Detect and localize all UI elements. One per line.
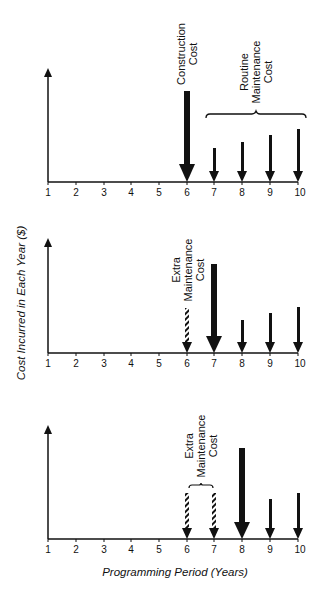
routine-arrow-icon <box>237 320 247 353</box>
svg-text:4: 4 <box>128 358 134 369</box>
svg-text:8: 8 <box>239 544 245 555</box>
panel-1: 1 2 3 4 5 6 7 8 9 10 <box>44 23 306 198</box>
extra-maintenance-arrow-icon <box>182 493 192 539</box>
svg-text:Cost: Cost <box>262 61 274 84</box>
svg-text:7: 7 <box>211 187 217 198</box>
svg-text:2: 2 <box>73 358 79 369</box>
routine-arrow-icon <box>293 307 303 353</box>
svg-text:3: 3 <box>101 358 107 369</box>
svg-text:Extra: Extra <box>170 256 182 283</box>
routine-arrow-icon <box>265 135 275 182</box>
svg-text:2: 2 <box>73 187 79 198</box>
routine-arrow-icon <box>293 493 303 539</box>
svg-text:Maintenance: Maintenance <box>182 239 194 302</box>
x-tick-labels: 1 2 3 4 5 6 7 8 9 10 <box>45 544 306 555</box>
svg-text:6: 6 <box>184 544 190 555</box>
routine-arrow-icon <box>237 142 247 182</box>
svg-text:10: 10 <box>294 544 306 555</box>
cost-timeline-diagram: 1 2 3 4 5 6 7 8 9 10 <box>0 0 324 592</box>
x-tick-labels: 1 2 3 4 5 6 7 8 9 10 <box>45 187 306 198</box>
panel-2: 1 2 3 4 5 6 7 8 9 10 Extra Maintenance <box>44 238 306 369</box>
svg-text:1: 1 <box>45 358 51 369</box>
svg-text:Cost: Cost <box>194 259 206 282</box>
y-axis-arrow-icon <box>44 238 52 247</box>
svg-text:Cost: Cost <box>207 435 219 458</box>
construction-arrow-icon <box>206 264 222 353</box>
extra-maintenance-brace <box>189 483 213 488</box>
svg-text:5: 5 <box>156 544 162 555</box>
svg-text:Construction: Construction <box>175 23 187 85</box>
svg-text:4: 4 <box>128 187 134 198</box>
svg-text:4: 4 <box>128 544 134 555</box>
routine-maintenance-cost-label: Routine Maintenance Cost <box>238 41 274 104</box>
svg-text:Routine: Routine <box>238 53 250 91</box>
svg-text:10: 10 <box>294 187 306 198</box>
routine-arrow-icon <box>265 313 275 353</box>
routine-brace <box>206 111 306 118</box>
panel-3: 1 2 3 4 5 6 7 8 9 10 Extra Mainten <box>44 415 306 556</box>
svg-text:Maintenance: Maintenance <box>250 41 262 104</box>
x-tick-labels: 1 2 3 4 5 6 7 8 9 10 <box>45 358 306 369</box>
svg-text:6: 6 <box>184 187 190 198</box>
svg-text:2: 2 <box>73 544 79 555</box>
routine-arrow-icon <box>209 148 219 182</box>
routine-arrow-icon <box>265 499 275 539</box>
extra-maintenance-arrow-icon <box>182 308 192 353</box>
svg-text:7: 7 <box>211 544 217 555</box>
svg-text:9: 9 <box>267 358 273 369</box>
x-axis-label: Programming Period (Years) <box>102 566 248 578</box>
extra-maintenance-cost-label: Extra Maintenance Cost <box>183 415 219 478</box>
svg-text:Maintenance: Maintenance <box>195 415 207 478</box>
svg-text:1: 1 <box>45 187 51 198</box>
y-axis-arrow-icon <box>44 425 52 434</box>
svg-text:10: 10 <box>294 358 306 369</box>
y-axis-label: Cost Incurred in Each Year ($) <box>15 226 27 381</box>
svg-text:1: 1 <box>45 544 51 555</box>
construction-cost-label: Construction Cost <box>175 23 199 85</box>
svg-text:6: 6 <box>184 358 190 369</box>
svg-text:8: 8 <box>239 358 245 369</box>
svg-text:8: 8 <box>239 187 245 198</box>
svg-text:9: 9 <box>267 544 273 555</box>
svg-text:5: 5 <box>156 358 162 369</box>
extra-maintenance-cost-label: Extra Maintenance Cost <box>170 239 206 302</box>
svg-text:7: 7 <box>211 358 217 369</box>
svg-text:Extra: Extra <box>183 432 195 459</box>
svg-text:Cost: Cost <box>187 43 199 66</box>
y-axis-arrow-icon <box>44 68 52 77</box>
svg-text:3: 3 <box>101 544 107 555</box>
svg-text:9: 9 <box>267 187 273 198</box>
routine-arrow-icon <box>293 129 303 182</box>
svg-text:3: 3 <box>101 187 107 198</box>
construction-arrow-icon <box>179 91 195 182</box>
construction-arrow-icon <box>234 448 250 539</box>
extra-maintenance-arrow-icon <box>209 493 219 539</box>
svg-text:5: 5 <box>156 187 162 198</box>
